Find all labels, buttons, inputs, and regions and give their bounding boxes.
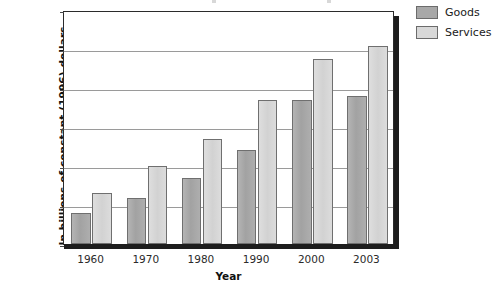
crop-mark-right xyxy=(327,0,331,3)
legend-item-goods[interactable]: Goods xyxy=(416,6,491,19)
x-axis-title: Year xyxy=(63,270,394,282)
gridline xyxy=(64,51,393,52)
bar-goods-1990[interactable] xyxy=(237,150,257,244)
frame-shadow-bottom xyxy=(64,244,399,249)
gridline xyxy=(64,90,393,91)
bar-services-1980[interactable] xyxy=(203,139,223,244)
y-tick-mark xyxy=(60,129,64,130)
gridline xyxy=(64,129,393,130)
bar-services-1970[interactable] xyxy=(148,166,168,244)
legend-item-services[interactable]: Services xyxy=(416,26,491,39)
gridline xyxy=(64,168,393,169)
bar-goods-2003[interactable] xyxy=(347,96,367,244)
legend-label-goods: Goods xyxy=(445,6,480,19)
bar-goods-1960[interactable] xyxy=(71,213,91,244)
bar-services-1990[interactable] xyxy=(258,100,278,244)
bar-goods-1980[interactable] xyxy=(182,178,202,244)
y-tick-mark xyxy=(60,207,64,208)
y-tick-mark xyxy=(60,51,64,52)
legend-swatch-services xyxy=(416,26,438,39)
bar-goods-1970[interactable] xyxy=(127,198,147,244)
y-tick-mark xyxy=(60,90,64,91)
bar-goods-2000[interactable] xyxy=(292,100,312,244)
legend-label-services: Services xyxy=(445,26,491,39)
bar-chart: In billions of constant (1996) dollars 0… xyxy=(0,0,499,289)
y-tick-mark xyxy=(60,168,64,169)
gridline xyxy=(64,207,393,208)
legend: Goods Services xyxy=(416,6,491,39)
plot-area xyxy=(63,11,394,245)
y-tick-mark xyxy=(60,12,64,13)
x-tick-label-2003: 2003 xyxy=(331,253,401,265)
bar-services-1960[interactable] xyxy=(92,193,112,244)
bar-services-2000[interactable] xyxy=(313,59,333,244)
bar-services-2003[interactable] xyxy=(368,46,388,244)
legend-swatch-goods xyxy=(416,6,438,19)
crop-mark-left xyxy=(212,0,216,3)
frame-shadow-right xyxy=(394,16,399,249)
